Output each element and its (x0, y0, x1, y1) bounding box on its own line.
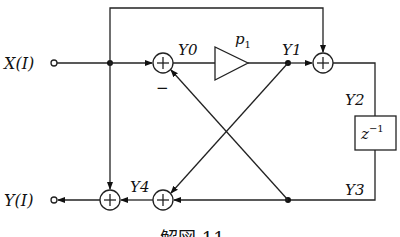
gain-label: p1 (235, 30, 251, 50)
figure-caption: 解図 11 (160, 228, 225, 237)
diagonal-y1-to-sum4 (171, 63, 288, 193)
signal-label-y1: Y1 (282, 41, 301, 59)
output-terminal-icon (51, 197, 57, 203)
input-label: X(I) (2, 54, 34, 73)
signal-label-y4: Y4 (130, 178, 149, 196)
signal-label-y0: Y0 (178, 41, 198, 59)
diagonal-y3-to-sum1 (171, 70, 288, 200)
gain-triangle-icon (215, 47, 248, 80)
minus-sign: − (156, 79, 169, 97)
sum-node-2 (313, 53, 333, 73)
sum-node-1 (153, 53, 173, 73)
output-label: Y(I) (4, 191, 33, 210)
sum-node-3 (100, 190, 120, 210)
signal-label-y3: Y3 (345, 181, 364, 199)
signal-label-y2: Y2 (345, 91, 364, 109)
block-diagram: X(I) Y0 − p1 Y1 Y2 z−1 Y3 (0, 0, 400, 237)
input-terminal-icon (51, 60, 57, 66)
sum-node-4 (153, 190, 173, 210)
